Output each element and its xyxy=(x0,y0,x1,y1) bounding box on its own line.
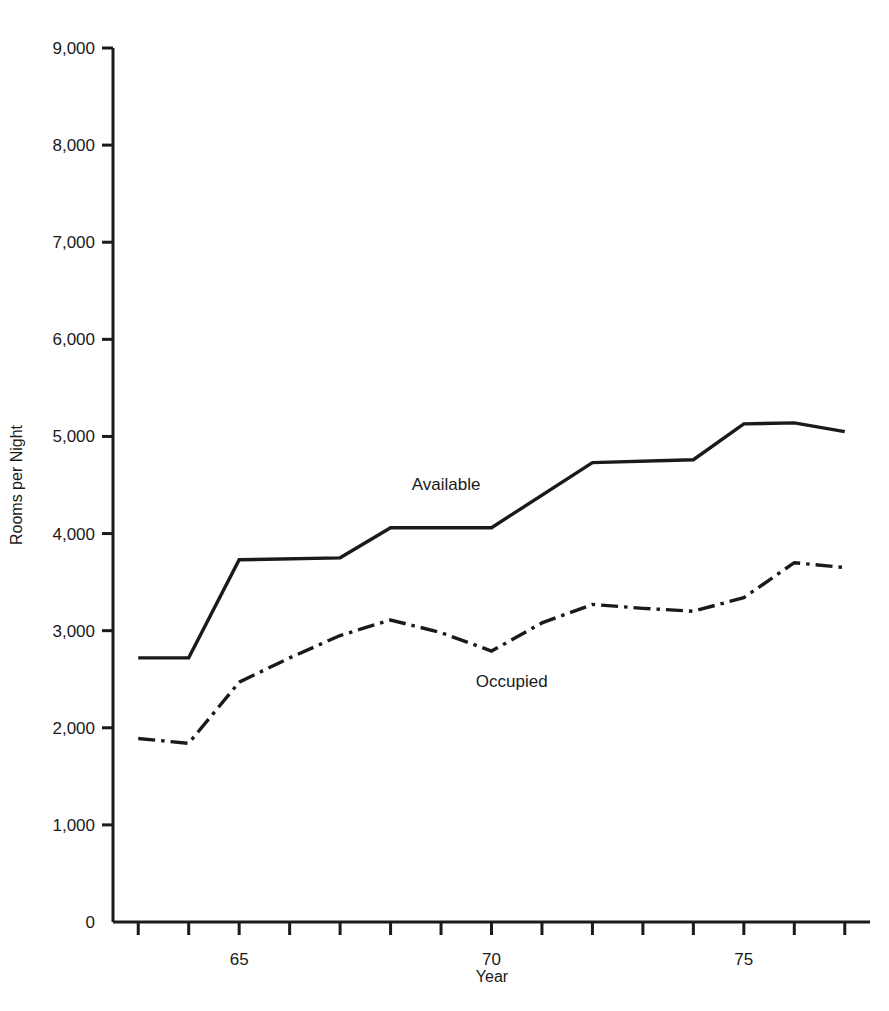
series-label-occupied: Occupied xyxy=(476,672,548,691)
y-axis-tick-label: 7,000 xyxy=(52,233,95,252)
chart-container: 01,0002,0003,0004,0005,0006,0007,0008,00… xyxy=(0,0,889,1011)
x-axis-tick-label: 70 xyxy=(482,950,501,969)
y-axis-tick-label: 4,000 xyxy=(52,525,95,544)
y-axis-tick-label: 1,000 xyxy=(52,816,95,835)
y-axis-tick-label: 3,000 xyxy=(52,622,95,641)
x-axis-tick-label: 75 xyxy=(734,950,753,969)
x-axis-title: Year xyxy=(476,968,509,985)
y-axis-tick-label: 6,000 xyxy=(52,330,95,349)
series-label-available: Available xyxy=(412,475,481,494)
y-axis-tick-label: 8,000 xyxy=(52,136,95,155)
rooms-per-night-line-chart: 01,0002,0003,0004,0005,0006,0007,0008,00… xyxy=(0,0,889,1011)
y-axis-title: Rooms per Night xyxy=(8,424,25,545)
y-axis-tick-label: 5,000 xyxy=(52,427,95,446)
x-axis-tick-label: 65 xyxy=(230,950,249,969)
chart-background xyxy=(0,0,889,1011)
y-axis-tick-label: 2,000 xyxy=(52,719,95,738)
y-axis-tick-label: 9,000 xyxy=(52,39,95,58)
y-axis-tick-label: 0 xyxy=(86,913,95,932)
